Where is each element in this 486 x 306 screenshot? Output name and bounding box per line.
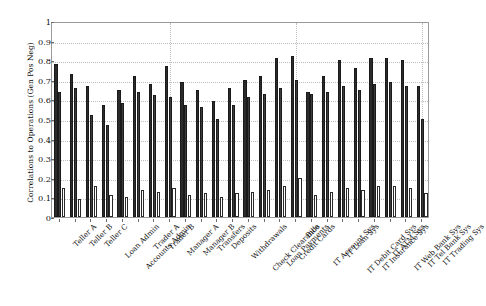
bar: [393, 186, 396, 217]
x-tick-mark: [122, 219, 123, 222]
bar: [149, 84, 152, 217]
y-tick-mark: [51, 61, 54, 62]
bar: [109, 195, 112, 217]
x-tick-mark: [264, 219, 265, 222]
bar: [409, 188, 412, 217]
y-tick-mark: [51, 100, 54, 101]
bar: [263, 94, 266, 217]
bar: [58, 92, 61, 217]
bar: [220, 197, 223, 217]
bar: [184, 105, 187, 217]
y-tick-label: 0.9: [7, 37, 51, 47]
x-tick-mark: [342, 219, 343, 222]
bar: [216, 119, 219, 217]
y-tick-label: 0.2: [7, 174, 51, 184]
bar: [172, 188, 175, 217]
bar: [342, 86, 345, 217]
bar: [424, 193, 427, 217]
y-tick-label: 0.5: [7, 115, 51, 125]
bar: [275, 58, 278, 217]
bar: [54, 64, 57, 217]
bar: [121, 103, 124, 217]
x-tick-mark: [201, 219, 202, 222]
bar-group: [165, 23, 176, 217]
x-tick-mark: [232, 219, 233, 222]
x-tick-label: IT Loan Sys: [343, 222, 380, 259]
x-axis-labels: Teller ATeller BTeller CLoan AdminAccoun…: [51, 219, 429, 306]
bar: [70, 74, 73, 217]
bar: [180, 82, 183, 217]
bar: [354, 68, 357, 217]
x-tick-mark: [185, 219, 186, 222]
x-tick-mark: [390, 219, 391, 222]
y-tick-mark: [51, 179, 54, 180]
bar: [228, 88, 231, 217]
x-tick-mark: [248, 219, 249, 222]
bar: [94, 186, 97, 217]
bar: [200, 107, 203, 217]
bar-group: [117, 23, 128, 217]
bar: [283, 186, 286, 217]
bar: [310, 94, 313, 217]
bar: [196, 90, 199, 217]
y-axis-ticks: 00.10.20.30.40.50.60.70.80.91: [0, 0, 51, 306]
bar-group: [102, 23, 113, 217]
y-tick-mark: [51, 140, 54, 141]
bar: [212, 101, 215, 217]
x-tick-mark: [311, 219, 312, 222]
bar: [405, 86, 408, 217]
bar: [157, 192, 160, 217]
bar-group: [149, 23, 160, 217]
bar: [133, 76, 136, 217]
x-tick-mark: [138, 219, 139, 222]
bar: [169, 97, 172, 217]
bar: [358, 90, 361, 217]
y-tick-label: 0.3: [7, 154, 51, 164]
bar: [421, 119, 424, 217]
x-tick-mark: [405, 219, 406, 222]
bar: [165, 66, 168, 217]
bar: [389, 82, 392, 217]
bar: [78, 199, 81, 217]
bar: [243, 80, 246, 217]
bar: [369, 58, 372, 217]
x-tick-mark: [279, 219, 280, 222]
x-tick-mark: [421, 219, 422, 222]
y-tick-label: 1: [7, 17, 51, 27]
plot-area: [51, 22, 429, 218]
bar: [137, 92, 140, 217]
bar-group: [86, 23, 97, 217]
y-tick-mark: [51, 42, 54, 43]
bar: [235, 193, 238, 217]
y-tick-mark: [51, 198, 54, 199]
y-tick-mark: [51, 120, 54, 121]
bar: [373, 84, 376, 217]
bar: [346, 188, 349, 217]
bar: [314, 195, 317, 217]
bar: [188, 195, 191, 217]
bar-group: [369, 23, 380, 217]
bar-group: [322, 23, 333, 217]
x-tick-mark: [358, 219, 359, 222]
y-tick-label: 0.4: [7, 135, 51, 145]
bar: [338, 60, 341, 217]
bar: [204, 193, 207, 217]
bar: [298, 178, 301, 217]
bar-group: [243, 23, 254, 217]
bar: [232, 105, 235, 217]
x-tick-mark: [327, 219, 328, 222]
bar: [361, 190, 364, 217]
bar: [322, 76, 325, 217]
bar-group: [54, 23, 65, 217]
y-tick-label: 0.8: [7, 56, 51, 66]
bar-group: [401, 23, 412, 217]
y-tick-mark: [51, 159, 54, 160]
x-tick-mark: [106, 219, 107, 222]
bar-group: [180, 23, 191, 217]
bar: [141, 190, 144, 217]
bar: [90, 115, 93, 217]
bar: [74, 88, 77, 217]
x-tick-mark: [59, 219, 60, 222]
bar: [401, 60, 404, 217]
